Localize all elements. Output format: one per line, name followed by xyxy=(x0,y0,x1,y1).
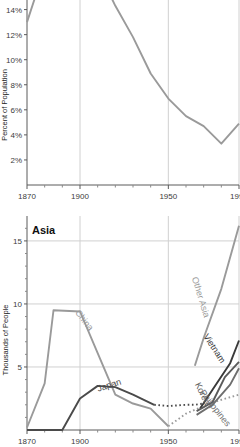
top-chart-line-percent xyxy=(27,0,239,144)
bottom-chart-panel-title: Asia xyxy=(32,224,56,236)
top-chart-series-group xyxy=(27,0,239,144)
figure-container: 2%4%6%8%10%12%14%1870190019501990 Percen… xyxy=(0,0,240,447)
top-chart-y-axis-title: Percent of Population xyxy=(0,69,9,141)
top-chart-y-tick-label: 12% xyxy=(6,31,22,40)
top-chart-axes xyxy=(24,0,239,189)
top-chart-y-tick-label: 6% xyxy=(10,106,22,115)
top-chart-y-tick-label: 14% xyxy=(6,6,22,15)
top-chart-svg: 2%4%6%8%10%12%14%1870190019501990 Percen… xyxy=(0,0,240,210)
bottom-chart-x-tick-label: 1990 xyxy=(230,437,240,446)
top-chart-gridlines xyxy=(80,0,239,185)
top-chart-x-tick-label: 1870 xyxy=(18,192,36,201)
top-chart-x-tick-label: 1950 xyxy=(159,192,177,201)
top-chart-tick-labels: 2%4%6%8%10%12%14%1870190019501990 xyxy=(6,6,240,201)
bottom-chart-x-tick-label: 1900 xyxy=(71,437,89,446)
bottom-chart-x-tick-label: 1870 xyxy=(18,437,36,446)
top-chart-y-tick-label: 8% xyxy=(10,81,22,90)
bottom-chart-line-china xyxy=(27,310,168,427)
top-chart-y-tick-label: 2% xyxy=(10,156,22,165)
bottom-chart-line-japan-projected xyxy=(154,404,203,407)
bottom-chart-series-label-china: China xyxy=(73,308,95,333)
top-chart-x-tick-label: 1900 xyxy=(71,192,89,201)
top-chart-y-tick-label: 10% xyxy=(6,56,22,65)
bottom-chart-y-tick-label: 15 xyxy=(13,237,22,246)
bottom-chart-y-axis-title: Thousands of People xyxy=(1,305,10,376)
bottom-chart-line-japan xyxy=(27,386,154,430)
top-chart-x-tick-label: 1990 xyxy=(230,192,240,201)
bottom-chart-svg: ChinaJapanOther AsiaVietnamKoreaPhilippi… xyxy=(0,210,240,447)
chart-asia-immigration: ChinaJapanOther AsiaVietnamKoreaPhilippi… xyxy=(0,210,240,447)
bottom-chart-series-label-other-asia: Other Asia xyxy=(190,276,212,319)
chart-percent-of-population: 2%4%6%8%10%12%14%1870190019501990 Percen… xyxy=(0,0,240,210)
bottom-chart-x-tick-label: 1950 xyxy=(159,437,177,446)
bottom-chart-series-label-japan: Japan xyxy=(96,377,122,394)
bottom-chart-series-label-vietnam: Vietnam xyxy=(201,332,227,365)
bottom-chart-y-tick-label: 10 xyxy=(13,300,22,309)
bottom-chart-y-tick-label: 5 xyxy=(18,363,23,372)
top-chart-y-tick-label: 4% xyxy=(10,131,22,140)
